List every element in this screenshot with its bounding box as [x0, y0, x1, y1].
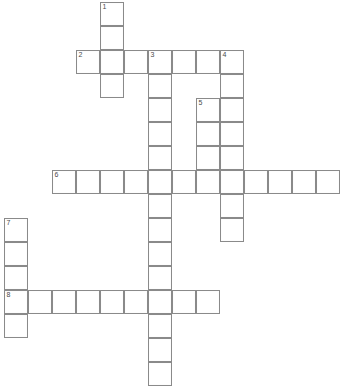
crossword-cell[interactable]	[196, 170, 220, 194]
crossword-cell[interactable]	[52, 290, 76, 314]
crossword-cell[interactable]	[148, 314, 172, 338]
crossword-cell[interactable]	[28, 290, 52, 314]
crossword-cell[interactable]	[148, 194, 172, 218]
crossword-cell[interactable]: 7	[4, 218, 28, 242]
crossword-cell[interactable]: 2	[76, 50, 100, 74]
crossword-cell[interactable]	[148, 242, 172, 266]
crossword-cell[interactable]	[220, 170, 244, 194]
cell-number: 1	[103, 3, 107, 11]
crossword-cell[interactable]	[148, 146, 172, 170]
crossword-cell[interactable]: 1	[100, 2, 124, 26]
crossword-cell[interactable]	[196, 290, 220, 314]
crossword-cell[interactable]	[172, 170, 196, 194]
crossword-cell[interactable]	[100, 26, 124, 50]
crossword-cell[interactable]	[124, 290, 148, 314]
crossword-cell[interactable]	[148, 266, 172, 290]
crossword-cell[interactable]	[100, 74, 124, 98]
crossword-cell[interactable]	[172, 290, 196, 314]
crossword-cell[interactable]: 5	[196, 98, 220, 122]
cell-number: 4	[223, 51, 227, 59]
crossword-cell[interactable]	[100, 290, 124, 314]
crossword-cell[interactable]	[148, 98, 172, 122]
crossword-cell[interactable]	[148, 122, 172, 146]
crossword-cell[interactable]	[196, 50, 220, 74]
cell-number: 5	[199, 99, 203, 107]
crossword-cell[interactable]	[220, 122, 244, 146]
crossword-cell[interactable]	[316, 170, 340, 194]
crossword-cell[interactable]	[148, 338, 172, 362]
crossword-cell[interactable]	[124, 170, 148, 194]
cell-number: 3	[151, 51, 155, 59]
crossword-cell[interactable]	[4, 266, 28, 290]
crossword-cell[interactable]	[124, 50, 148, 74]
crossword-cell[interactable]: 8	[4, 290, 28, 314]
crossword-cell[interactable]: 6	[52, 170, 76, 194]
crossword-cell[interactable]	[148, 362, 172, 386]
crossword-cell[interactable]	[100, 50, 124, 74]
crossword-cell[interactable]: 3	[148, 50, 172, 74]
crossword-cell[interactable]	[196, 122, 220, 146]
crossword-cell[interactable]: 4	[220, 50, 244, 74]
cell-number: 2	[79, 51, 83, 59]
crossword-cell[interactable]	[220, 74, 244, 98]
crossword-cell[interactable]	[4, 314, 28, 338]
crossword-cell[interactable]	[148, 74, 172, 98]
crossword-cell[interactable]	[220, 218, 244, 242]
crossword-cell[interactable]	[148, 218, 172, 242]
cell-number: 8	[7, 291, 11, 299]
crossword-cell[interactable]	[4, 242, 28, 266]
cell-number: 7	[7, 219, 11, 227]
crossword-cell[interactable]	[172, 50, 196, 74]
crossword-cell[interactable]	[100, 170, 124, 194]
cell-number: 6	[55, 171, 59, 179]
crossword-cell[interactable]	[244, 170, 268, 194]
crossword-cell[interactable]	[220, 194, 244, 218]
crossword-cell[interactable]	[268, 170, 292, 194]
crossword-cell[interactable]	[220, 146, 244, 170]
crossword-cell[interactable]	[76, 290, 100, 314]
crossword-cell[interactable]	[148, 290, 172, 314]
crossword-cell[interactable]	[220, 98, 244, 122]
crossword-cell[interactable]	[292, 170, 316, 194]
crossword-cell[interactable]	[196, 146, 220, 170]
crossword-cell[interactable]	[76, 170, 100, 194]
crossword-cell[interactable]	[148, 170, 172, 194]
